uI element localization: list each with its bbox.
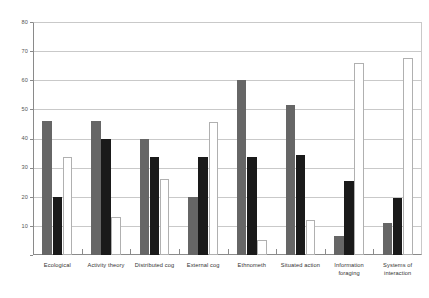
bar-group xyxy=(33,22,82,255)
category-label: Distributed cog xyxy=(130,262,179,270)
bar xyxy=(53,197,63,255)
bar xyxy=(403,58,413,255)
category-label: Activity theory xyxy=(82,262,131,270)
category-separator xyxy=(373,249,374,255)
bar xyxy=(393,198,403,255)
bar-group xyxy=(276,22,325,255)
bar xyxy=(257,240,267,255)
category-label-line: Activity theory xyxy=(82,262,131,270)
y-tick-label: 50 xyxy=(7,106,28,112)
bar xyxy=(111,217,121,255)
bar xyxy=(160,179,170,255)
category-label: External cog xyxy=(179,262,228,270)
y-tick-label: 40 xyxy=(7,135,28,141)
bar xyxy=(42,121,52,255)
bar xyxy=(247,157,257,255)
bar-group xyxy=(325,22,374,255)
bar xyxy=(63,157,73,255)
bar xyxy=(91,121,101,255)
bar-group xyxy=(130,22,179,255)
bar xyxy=(140,139,150,256)
category-label-line: interaction xyxy=(373,270,422,278)
y-tick-label: 80 xyxy=(7,19,28,25)
category-label-line: External cog xyxy=(179,262,228,270)
bar xyxy=(286,105,296,255)
bar xyxy=(354,63,364,255)
category-separator xyxy=(82,249,83,255)
y-tick-label: 70 xyxy=(7,48,28,54)
category-label-line: Information xyxy=(325,262,374,270)
category-label-line: Systems of xyxy=(373,262,422,270)
bar xyxy=(296,155,306,255)
category-label: Situated action xyxy=(276,262,325,270)
category-label-line: Situated action xyxy=(276,262,325,270)
bar-group xyxy=(373,22,422,255)
category-separator xyxy=(276,249,277,255)
category-separator xyxy=(130,249,131,255)
category-separator xyxy=(228,249,229,255)
bar xyxy=(150,157,160,255)
y-tick-label: 60 xyxy=(7,77,28,83)
bars-layer xyxy=(33,22,422,255)
y-tick-label: 10 xyxy=(7,223,28,229)
category-label-line: Ecological xyxy=(33,262,82,270)
y-tick-mark xyxy=(30,255,33,256)
bar xyxy=(188,197,198,255)
bar xyxy=(101,139,111,256)
y-tick-label: 20 xyxy=(7,194,28,200)
category-label: Systems ofinteraction xyxy=(373,262,422,277)
category-label: Ecological xyxy=(33,262,82,270)
bar xyxy=(383,223,393,255)
bar-chart: 1020304050607080 EcologicalActivity theo… xyxy=(0,0,429,298)
y-tick-label: 30 xyxy=(7,164,28,170)
bar xyxy=(306,220,316,255)
bar xyxy=(198,157,208,255)
category-separator xyxy=(179,249,180,255)
category-label-line: Distributed cog xyxy=(130,262,179,270)
category-label: Informationforaging xyxy=(325,262,374,277)
bar xyxy=(237,80,247,255)
bar-group xyxy=(82,22,131,255)
category-label-line: Ethnometh xyxy=(228,262,277,270)
bar xyxy=(344,181,354,255)
category-label-line: foraging xyxy=(325,270,374,278)
bar xyxy=(334,236,344,255)
bar xyxy=(209,122,219,255)
category-separator xyxy=(325,249,326,255)
bar-group xyxy=(179,22,228,255)
bar-group xyxy=(228,22,277,255)
category-label: Ethnometh xyxy=(228,262,277,270)
